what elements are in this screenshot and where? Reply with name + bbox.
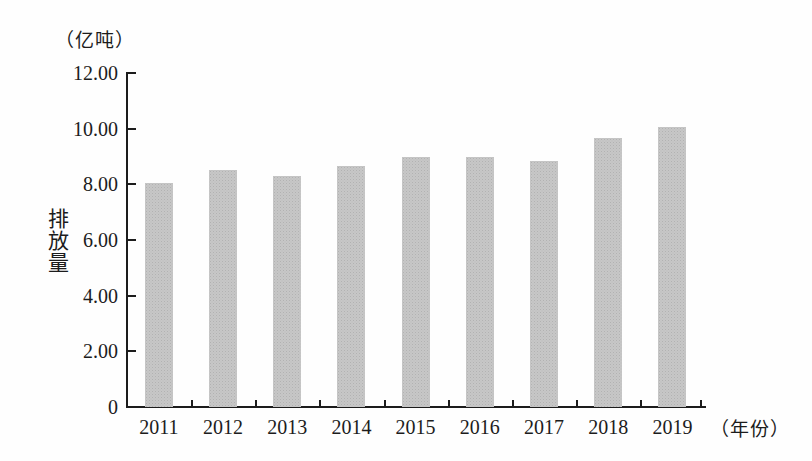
y-tick-label: 12.00	[46, 62, 118, 84]
x-category-label-2018: 2018	[576, 416, 640, 438]
emissions-bar-chart-figure: （亿吨） 排放量 02.004.006.008.0010.0012.002011…	[0, 0, 812, 461]
bar-2014	[337, 166, 365, 407]
x-category-label-2016: 2016	[448, 416, 512, 438]
x-axis-tick	[700, 400, 702, 407]
x-axis-tick	[191, 400, 193, 407]
bar-2011	[145, 183, 173, 407]
y-axis-tick	[128, 350, 136, 352]
x-category-label-2019: 2019	[640, 416, 704, 438]
bar-2012	[209, 170, 237, 407]
y-axis-tick	[128, 128, 136, 130]
y-axis-tick	[128, 72, 136, 74]
x-axis-tick	[384, 400, 386, 407]
bar-2013	[273, 176, 301, 407]
y-tick-label: 4.00	[46, 285, 118, 307]
x-category-label-2011: 2011	[127, 416, 191, 438]
x-category-label-2017: 2017	[512, 416, 576, 438]
x-axis-tick	[319, 400, 321, 407]
y-tick-label: 2.00	[46, 340, 118, 362]
y-axis-tick	[128, 295, 136, 297]
bar-2016	[466, 157, 494, 408]
bar-2017	[530, 161, 558, 407]
x-axis-unit-label: （年份）	[710, 414, 790, 441]
x-axis-tick	[512, 400, 514, 407]
bar-2019	[658, 127, 686, 407]
y-tick-label: 0	[46, 396, 118, 418]
x-category-label-2012: 2012	[191, 416, 255, 438]
y-axis-unit-label: （亿吨）	[55, 25, 135, 52]
bar-2018	[594, 138, 622, 407]
y-axis-tick	[128, 183, 136, 185]
y-tick-label: 6.00	[46, 229, 118, 251]
bar-2015	[402, 157, 430, 408]
x-category-label-2013: 2013	[255, 416, 319, 438]
plot-area: 02.004.006.008.0010.0012.002011201220132…	[128, 73, 703, 407]
x-axis-tick	[255, 400, 257, 407]
y-tick-label: 10.00	[46, 118, 118, 140]
x-category-label-2014: 2014	[319, 416, 383, 438]
x-category-label-2015: 2015	[384, 416, 448, 438]
x-axis-tick	[576, 400, 578, 407]
y-axis-tick	[128, 239, 136, 241]
y-tick-label: 8.00	[46, 173, 118, 195]
x-axis-tick	[640, 400, 642, 407]
x-axis-tick	[448, 400, 450, 407]
